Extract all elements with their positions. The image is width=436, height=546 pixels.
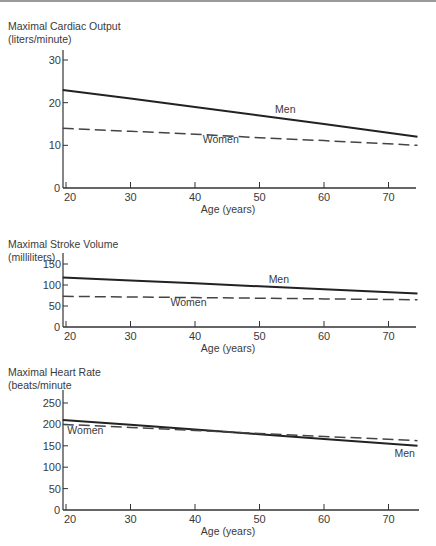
y-tick-label: 150 [43,440,61,452]
heart-rate-chart: Maximal Heart Rate (beats/minute 0501001… [0,0,436,546]
x-tick-label: 30 [124,513,136,525]
y-tick-label: 250 [43,397,61,409]
y-tick-label: 100 [43,461,61,473]
women-label: Women [67,424,103,436]
x-tick-label: 50 [253,513,265,525]
x-tick-label: 70 [382,513,394,525]
men-label: Men [394,447,415,459]
x-tick-label: 20 [64,513,76,525]
women-line [63,424,418,440]
x-tick-label: 40 [189,513,201,525]
y-tick-label: 0 [54,504,60,516]
x-axis-label: Age (years) [201,525,255,537]
x-tick-label: 60 [318,513,330,525]
y-tick-label: 200 [43,418,61,430]
y-tick-label: 50 [49,483,61,495]
heart-rate-plot: 050100150200250203040506070Age (years)Wo… [0,0,436,546]
